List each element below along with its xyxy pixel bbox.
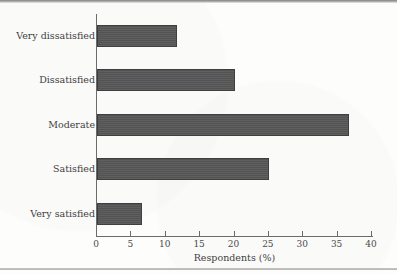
- x-tick-15: [199, 231, 200, 237]
- category-label: Very satisfied: [30, 208, 95, 219]
- bar: [97, 69, 235, 91]
- x-tick-label-0: 0: [83, 239, 109, 250]
- x-tick-label-35: 35: [324, 239, 350, 250]
- chart-figure: 0510152025303540 Very dissatisfiedDissat…: [0, 0, 397, 274]
- x-tick-label-15: 15: [186, 239, 212, 250]
- category-label: Dissatisfied: [39, 74, 95, 85]
- x-tick-0: [96, 231, 97, 237]
- category-label: Very dissatisfied: [16, 30, 95, 41]
- plot-area: 0510152025303540 Very dissatisfiedDissat…: [0, 0, 397, 274]
- x-tick-label-25: 25: [255, 239, 281, 250]
- bar: [97, 158, 269, 180]
- bar: [97, 203, 142, 225]
- x-tick-35: [337, 231, 338, 237]
- x-tick-10: [165, 231, 166, 237]
- x-tick-label-20: 20: [221, 239, 247, 250]
- x-tick-5: [130, 231, 131, 237]
- x-tick-label-10: 10: [152, 239, 178, 250]
- x-axis-line: [96, 236, 373, 237]
- category-label: Moderate: [48, 119, 95, 130]
- bar: [97, 25, 177, 47]
- x-tick-25: [268, 231, 269, 237]
- x-tick-label-30: 30: [289, 239, 315, 250]
- x-tick-label-5: 5: [117, 239, 143, 250]
- x-tick-30: [302, 231, 303, 237]
- x-tick-20: [234, 231, 235, 237]
- scan-artifact-bottom-edge: [0, 268, 397, 270]
- bar: [97, 114, 349, 136]
- x-tick-label-40: 40: [358, 239, 384, 250]
- category-label: Satisfied: [53, 163, 95, 174]
- x-tick-40: [371, 231, 372, 237]
- x-axis-title: Respondents (%): [96, 252, 373, 264]
